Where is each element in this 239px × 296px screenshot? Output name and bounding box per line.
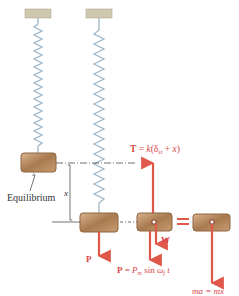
weight-label: W <box>161 235 170 245</box>
applied-force-label: P <box>86 254 92 264</box>
inertia-label: ma = mẍ <box>192 286 224 296</box>
mass-block-equilibrium <box>21 153 56 172</box>
equals-sign <box>177 218 189 225</box>
spring-left <box>34 18 42 153</box>
equilibrium-pointer-arrow <box>30 175 35 191</box>
equilibrium-label: Equilibrium <box>7 192 56 203</box>
ceiling-support-left <box>25 9 51 18</box>
kinetic-center-dot <box>210 220 214 224</box>
spring-right <box>94 18 104 213</box>
displacement-label: x <box>63 188 68 198</box>
center-of-mass-dot <box>152 220 156 224</box>
tension-label: T = k(δst + x) <box>130 144 180 155</box>
mass-block-displaced <box>80 213 118 232</box>
spring-mass-diagram: x Equilibrium P W T = k(δst + x) P = Pm … <box>0 0 239 296</box>
ceiling-support-right <box>86 9 112 18</box>
forcing-function-label: P = Pm sin ωf t <box>117 265 170 276</box>
